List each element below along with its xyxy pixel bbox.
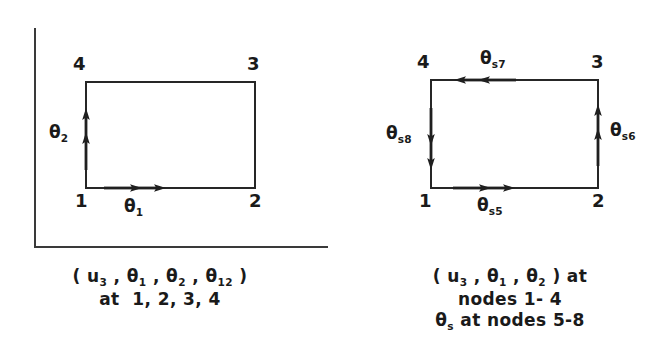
theta-s8-label-main: θ (386, 123, 398, 143)
element-edge-top-right-panel (430, 79, 599, 81)
theta-s8-label: θs8 (386, 125, 412, 145)
caption-left-l1-mid2: , θ (147, 266, 179, 286)
caption-right-l1-mid2: , θ (507, 266, 539, 286)
theta-s7-label-sub: s7 (492, 58, 506, 70)
caption-right-line-3: θs at nodes 5-8 (375, 310, 645, 333)
element-edge-left-left-panel (85, 81, 87, 189)
caption-right-panel: ( u3 , θ1 , θ2 ) at nodes 1- 4 θs at nod… (375, 266, 645, 333)
node-label-2-left-panel: 2 (249, 192, 262, 210)
theta-1-label-main: θ (124, 196, 136, 216)
node-label-1-right-panel: 1 (419, 192, 432, 210)
caption-left-l1-sub3: 2 (178, 276, 186, 288)
element-edge-left-right-panel (430, 79, 432, 189)
theta-s6-label: θs6 (610, 122, 636, 142)
diagram-panel-left: 4 3 1 2 θ2 θ1 ( u3 , θ1 , θ2 , θ12 ) at … (0, 0, 340, 362)
theta-s5-label-sub: s5 (489, 205, 503, 217)
element-edge-top-left-panel (85, 81, 256, 83)
caption-left-l1-post: ) (233, 266, 248, 286)
element-edge-right-left-panel (254, 81, 256, 189)
caption-left-line-2: at 1, 2, 3, 4 (30, 289, 290, 310)
node-label-4-right-panel: 4 (417, 53, 430, 71)
element-edge-right-right-panel (597, 79, 599, 189)
theta-s5-label: θs5 (477, 197, 503, 217)
figure-canvas: 4 3 1 2 θ2 θ1 ( u3 , θ1 , θ2 , θ12 ) at … (0, 0, 669, 362)
caption-right-l1-sub3: 2 (538, 276, 546, 288)
node-label-4-left-panel: 4 (73, 55, 86, 73)
caption-right-l1-pre: ( u (433, 266, 460, 286)
theta-s6-label-sub: s6 (622, 130, 636, 142)
diagram-panel-right: 4 3 1 2 θs7 θs8 θs6 (340, 0, 669, 362)
caption-right-line-1: ( u3 , θ1 , θ2 ) at (375, 266, 645, 289)
caption-right-l1-sub2: 1 (499, 276, 507, 288)
element-edge-bottom-left-panel (85, 187, 256, 189)
caption-left-panel: ( u3 , θ1 , θ2 , θ12 ) at 1, 2, 3, 4 (30, 266, 290, 310)
theta-s7-label-main: θ (480, 48, 492, 68)
node-label-3-right-panel: 3 (591, 53, 604, 71)
caption-left-l1-pre: ( u (73, 266, 100, 286)
element-edge-bottom-right-panel (430, 187, 599, 189)
caption-right-l3-pre: θ (435, 310, 447, 330)
theta-1-label-sub: 1 (136, 206, 144, 218)
caption-right-l3-sub: s (447, 320, 454, 332)
caption-right-l1-mid1: , θ (467, 266, 499, 286)
caption-left-l1-mid1: , θ (107, 266, 139, 286)
axis-vertical-line (34, 28, 36, 248)
caption-right-line-2: nodes 1- 4 (375, 289, 645, 310)
theta-2-label-main: θ (49, 122, 61, 142)
caption-right-l3-post: at nodes 5-8 (454, 310, 585, 330)
caption-left-l1-mid3: , θ (186, 266, 218, 286)
theta-1-label: θ1 (124, 198, 143, 218)
theta-2-label-sub: 2 (61, 132, 69, 144)
theta-s6-label-main: θ (610, 120, 622, 140)
caption-left-l1-sub4: 12 (217, 276, 232, 288)
theta-s8-label-sub: s8 (398, 133, 412, 145)
theta-s5-label-main: θ (477, 195, 489, 215)
caption-right-l1-post: ) at (546, 266, 587, 286)
theta-2-label: θ2 (49, 124, 68, 144)
caption-left-line-1: ( u3 , θ1 , θ2 , θ12 ) (30, 266, 290, 289)
node-label-1-left-panel: 1 (75, 192, 88, 210)
theta-s7-label: θs7 (480, 50, 506, 70)
axis-horizontal-line (34, 246, 328, 248)
node-label-3-left-panel: 3 (247, 55, 260, 73)
caption-left-l1-sub2: 1 (139, 276, 147, 288)
node-label-2-right-panel: 2 (592, 192, 605, 210)
